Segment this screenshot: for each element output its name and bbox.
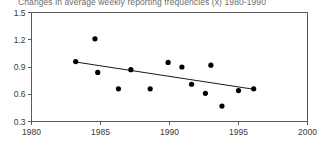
data-point xyxy=(128,67,133,72)
data-point xyxy=(116,86,121,91)
data-point xyxy=(203,91,208,96)
data-point xyxy=(95,70,100,75)
y-tick-label: 0.3 xyxy=(14,117,26,127)
x-tick-label: 1980 xyxy=(22,127,41,137)
chart-axes xyxy=(28,13,308,126)
y-tick-label: 0.9 xyxy=(14,62,26,72)
x-tick-label: 1995 xyxy=(229,127,248,137)
chart-tick-labels: 0.30.60.91.21.519801985199019952000 xyxy=(14,8,318,137)
data-point xyxy=(236,88,241,93)
trend-line xyxy=(76,62,254,89)
data-point xyxy=(92,36,97,41)
data-point xyxy=(219,103,224,108)
chart-data-points xyxy=(73,36,256,108)
y-tick-label: 1.2 xyxy=(14,35,26,45)
chart-container: Changes in average weekly reporting freq… xyxy=(0,0,329,142)
data-point xyxy=(166,60,171,65)
y-tick-label: 1.5 xyxy=(14,8,26,18)
x-tick-label: 2000 xyxy=(298,127,317,137)
x-tick-label: 1985 xyxy=(91,127,110,137)
data-point xyxy=(189,82,194,87)
data-point xyxy=(148,86,153,91)
chart-trend-line xyxy=(76,62,254,89)
data-point xyxy=(208,63,213,68)
data-point xyxy=(251,86,256,91)
data-point xyxy=(179,64,184,69)
y-tick-label: 0.6 xyxy=(14,89,26,99)
chart-plot-area: 0.30.60.91.21.519801985199019952000 xyxy=(0,0,329,142)
data-point xyxy=(73,59,78,64)
x-tick-label: 1990 xyxy=(160,127,179,137)
